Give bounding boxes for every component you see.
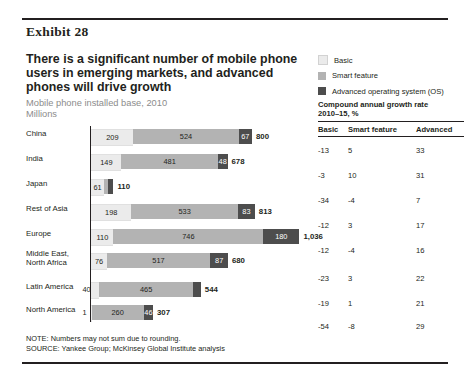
source-text: SOURCE: Yankee Group; McKinsey Global In… — [26, 344, 225, 354]
bar-segment-advanced[interactable]: 83 — [238, 204, 255, 219]
cagr-table: Compound annual growth rate 2010–15, % B… — [318, 100, 464, 137]
bar-segment-advanced[interactable]: 48 — [218, 154, 228, 169]
legend-item-label: Basic — [334, 56, 353, 65]
cagr-cell-basic: -23 — [318, 274, 348, 283]
bar-segment-basic-label: 1 — [82, 305, 86, 320]
bar-segment-smart[interactable]: 533 — [131, 204, 238, 219]
top-rule — [22, 18, 448, 20]
category-label: Europe — [26, 230, 86, 239]
cagr-cell-advanced: 16 — [416, 246, 464, 255]
bar-segment-advanced[interactable]: 67 — [239, 129, 252, 144]
cagr-cell-basic: -34 — [318, 196, 348, 205]
cagr-cell-smart-feature: 1 — [348, 299, 416, 308]
legend-item-label: Smart feature — [332, 71, 378, 80]
bar-segment-smart[interactable]: 517 — [107, 253, 211, 268]
cagr-cell-advanced: 21 — [416, 299, 464, 308]
bar-total-label: 307 — [153, 305, 170, 320]
cagr-title-line-2: 2010–15, % — [318, 109, 464, 118]
bar-segment-smart[interactable]: 746 — [113, 229, 263, 244]
legend-swatch-icon — [318, 72, 326, 80]
bar-total-label: 813 — [255, 204, 272, 219]
category-label: Japan — [26, 180, 86, 189]
bar-segment-basic[interactable]: 209 — [91, 129, 133, 146]
bar-total-label: 110 — [113, 179, 130, 194]
category-label: Middle East,North Africa — [26, 250, 86, 267]
cagr-table-row: -13533 — [318, 146, 464, 155]
page-title: There is a significant number of mobile … — [26, 52, 306, 95]
legend-item: Advanced operating system (OS) — [318, 85, 468, 98]
cagr-cell-advanced: 31 — [416, 171, 464, 180]
bar-total-label: 1,036 — [299, 229, 323, 244]
cagr-title: Compound annual growth rate 2010–15, % — [318, 100, 464, 118]
cagr-table-row: -12317 — [318, 221, 464, 230]
bar-segment-smart[interactable]: 260 — [92, 305, 144, 320]
cagr-table-row: -31031 — [318, 171, 464, 180]
bar-segment-advanced[interactable]: 180 — [263, 229, 299, 244]
note-text: NOTE: Numbers may not sum due to roundin… — [26, 334, 180, 344]
cagr-cell-advanced: 33 — [416, 146, 464, 155]
cagr-table-row: -19121 — [318, 299, 464, 308]
bar-segment-advanced[interactable]: 87 — [210, 253, 227, 268]
chart-legend: BasicSmart featureAdvanced operating sys… — [318, 54, 468, 101]
cagr-cell-advanced: 29 — [416, 322, 464, 331]
cagr-cell-basic: -13 — [318, 146, 348, 155]
bar-segment-basic[interactable] — [91, 282, 99, 299]
legend-item-label: Advanced operating system (OS) — [332, 87, 444, 96]
cagr-cell-basic: -54 — [318, 322, 348, 331]
legend-item: Basic — [318, 54, 468, 67]
category-label: China — [26, 130, 86, 139]
exhibit-page: Exhibit 28 There is a significant number… — [0, 0, 470, 380]
bottom-rule — [22, 362, 448, 364]
legend-item: Smart feature — [318, 70, 468, 83]
cagr-cell-smart-feature: -4 — [348, 196, 416, 205]
exhibit-label: Exhibit 28 — [26, 24, 89, 40]
bar-segment-basic[interactable]: 110 — [91, 229, 113, 246]
cagr-header-advanced: Advanced — [416, 125, 464, 134]
cagr-table-row: -12-416 — [318, 246, 464, 255]
cagr-cell-advanced: 17 — [416, 221, 464, 230]
cagr-cell-basic: -12 — [318, 246, 348, 255]
cagr-header-smart-feature: Smart feature — [348, 125, 416, 134]
bar-segment-basic[interactable]: 149 — [91, 154, 121, 171]
bar-segment-smart[interactable]: 481 — [121, 154, 218, 169]
cagr-divider-bottom — [318, 136, 464, 137]
bar-segment-smart[interactable]: 465 — [99, 282, 192, 297]
bar-total-label: 544 — [201, 282, 218, 297]
cagr-cell-smart-feature: 3 — [348, 221, 416, 230]
cagr-cell-advanced: 7 — [416, 196, 464, 205]
cagr-header-row: Basic Smart feature Advanced — [318, 122, 464, 136]
bar-segment-advanced[interactable]: 46 — [144, 305, 153, 320]
cagr-cell-smart-feature: 10 — [348, 171, 416, 180]
cagr-title-line-1: Compound annual growth rate — [318, 100, 464, 109]
category-label: Latin America — [26, 283, 86, 292]
category-label: North America — [26, 306, 86, 315]
cagr-cell-advanced: 22 — [416, 274, 464, 283]
category-label: India — [26, 155, 86, 164]
chart-subtitle: Mobile phone installed base, 2010 Millio… — [26, 98, 306, 120]
legend-swatch-icon — [318, 55, 328, 65]
subtitle-line-2: Millions — [26, 109, 306, 120]
cagr-table-row: -34-47 — [318, 196, 464, 205]
cagr-cell-smart-feature: 3 — [348, 274, 416, 283]
bar-segment-basic-label: 40 — [82, 282, 90, 297]
legend-swatch-icon — [318, 87, 326, 95]
bar-total-label: 678 — [228, 154, 245, 169]
bar-total-label: 680 — [228, 253, 245, 268]
cagr-cell-basic: -3 — [318, 171, 348, 180]
cagr-table-row: -23322 — [318, 274, 464, 283]
bar-segment-advanced[interactable] — [193, 282, 201, 297]
bar-segment-basic[interactable]: 61 — [91, 179, 103, 196]
bar-segment-basic[interactable]: 76 — [91, 253, 106, 270]
cagr-table-row: -54-829 — [318, 322, 464, 331]
stacked-bar-chart: China20952467800India14948148678Japan611… — [26, 126, 311, 326]
cagr-cell-smart-feature: -4 — [348, 246, 416, 255]
bar-total-label: 800 — [252, 129, 269, 144]
cagr-cell-basic: -19 — [318, 299, 348, 308]
bar-segment-basic[interactable]: 198 — [91, 204, 131, 221]
cagr-cell-smart-feature: -8 — [348, 322, 416, 331]
cagr-header-basic: Basic — [318, 125, 348, 134]
category-label: Rest of Asia — [26, 205, 86, 214]
subtitle-line-1: Mobile phone installed base, 2010 — [26, 98, 306, 109]
cagr-cell-smart-feature: 5 — [348, 146, 416, 155]
bar-segment-smart[interactable]: 524 — [133, 129, 238, 144]
